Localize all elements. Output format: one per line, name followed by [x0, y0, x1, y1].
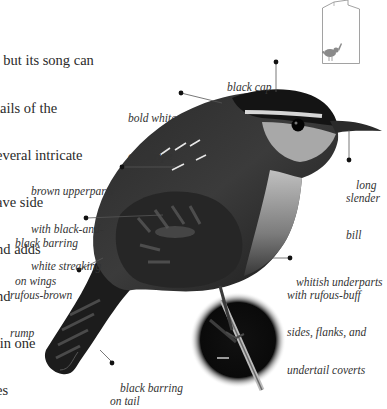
- label-line: rump: [10, 327, 72, 340]
- label-tail-rest: on tail: [110, 370, 140, 409]
- label-line: bold white: [128, 112, 176, 125]
- label-underparts-rest: with rufous-buff sides, flanks, and unde…: [287, 264, 366, 402]
- label-line: bill: [346, 229, 380, 242]
- label-rump: rufous-brown rump: [10, 264, 72, 364]
- label-line: black cap: [227, 81, 271, 94]
- label-line: eye stripe: [128, 150, 176, 163]
- label-line: brown upperparts: [31, 185, 113, 198]
- label-line: sides, flanks, and: [287, 326, 366, 339]
- label-line: rufous-brown: [10, 289, 72, 302]
- label-eye-stripe: bold white eye stripe: [128, 87, 176, 187]
- label-line: on tail: [110, 395, 140, 408]
- label-line: slender: [346, 192, 380, 205]
- label-line: undertail coverts: [287, 364, 366, 377]
- label-line: with rufous-buff: [287, 289, 366, 302]
- perch-vignette: [190, 292, 286, 390]
- label-black-cap: black cap: [227, 56, 271, 119]
- label-line: black barring: [15, 237, 78, 250]
